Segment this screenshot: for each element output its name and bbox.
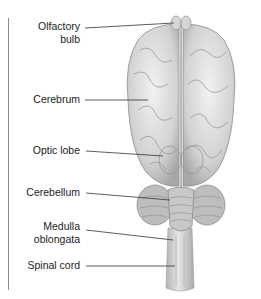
- leader-medulla-oblongata: [86, 230, 173, 240]
- olfactory-bulb-right-shape: [181, 16, 191, 30]
- label-medulla-oblongata: Medulla oblongata: [34, 220, 80, 246]
- label-olfactory-line2: bulb: [38, 33, 80, 46]
- cerebellum-left-shape: [137, 185, 173, 225]
- label-olfactory-bulb: Olfactory bulb: [38, 20, 80, 46]
- label-cerebellum: Cerebellum: [26, 186, 80, 199]
- cerebrum-right-hemisphere-shape: [183, 24, 235, 186]
- label-olfactory-line1: Olfactory: [38, 20, 80, 33]
- label-optic-lobe: Optic lobe: [33, 144, 80, 157]
- cerebellum-right-shape: [189, 185, 225, 225]
- label-cerebrum: Cerebrum: [33, 93, 80, 106]
- cerebellum-vermis-shape: [168, 187, 194, 231]
- label-medulla-line2: oblongata: [34, 233, 80, 246]
- label-medulla-line1: Medulla: [34, 220, 80, 233]
- spinal-cord-shape: [166, 228, 194, 291]
- cerebrum-left-hemisphere-shape: [127, 24, 179, 186]
- label-spinal-cord: Spinal cord: [27, 259, 80, 272]
